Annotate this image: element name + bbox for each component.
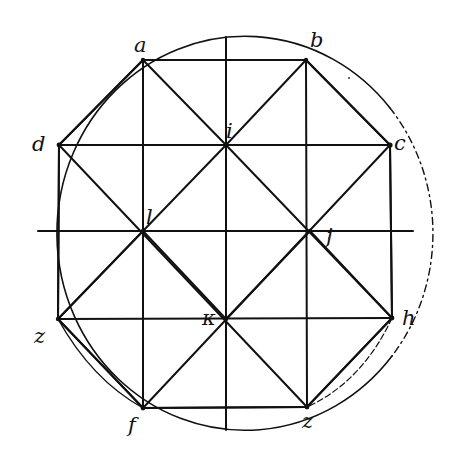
diag-a-d <box>59 60 143 145</box>
label-i: i <box>226 119 233 143</box>
grid-v-right <box>390 145 392 318</box>
label-e: z <box>301 409 314 433</box>
label-g: z <box>33 324 46 348</box>
diag-h-e <box>307 318 392 407</box>
diag-b-i <box>226 60 306 145</box>
diag-g-k <box>58 319 143 408</box>
diag-g-l <box>58 231 143 319</box>
label-h: h <box>402 306 416 330</box>
label-a: a <box>134 33 147 57</box>
label-f: f <box>126 413 139 437</box>
label-c: c <box>394 131 406 155</box>
diag-j-k <box>226 231 310 319</box>
diag-d-e <box>59 145 307 407</box>
label-l: l <box>146 205 153 229</box>
label-d: d <box>32 132 45 156</box>
diag-b-c <box>306 60 390 145</box>
diag-a-i <box>143 60 226 145</box>
label-b: b <box>310 28 323 52</box>
diag-h-j <box>310 231 392 318</box>
label-k: κ <box>201 306 216 330</box>
octagon-construction-diagram: a b c d i l j κ z h f z <box>0 0 452 462</box>
ink-speck <box>328 237 330 239</box>
grid-v-left <box>58 145 59 319</box>
ink-speck <box>348 77 350 79</box>
